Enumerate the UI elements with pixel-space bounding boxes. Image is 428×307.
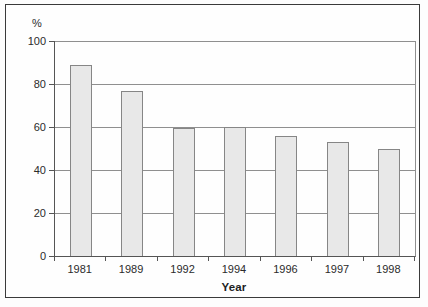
x-tick-label-1996: 1996 bbox=[259, 263, 311, 275]
y-tick-mark-100 bbox=[49, 41, 54, 42]
x-tick-label-1992: 1992 bbox=[157, 263, 209, 275]
y-tick-label-0: 0 bbox=[16, 251, 46, 262]
bar-1989 bbox=[121, 91, 143, 257]
figure-frame: % 020406080100 1981198919921994199619971… bbox=[5, 4, 420, 298]
x-tick-mark-6 bbox=[363, 257, 364, 261]
plot-area bbox=[54, 41, 416, 257]
y-tick-mark-40 bbox=[49, 170, 54, 171]
bar-1992 bbox=[173, 128, 195, 256]
x-tick-label-1998: 1998 bbox=[362, 263, 414, 275]
bar-1998 bbox=[378, 149, 400, 257]
x-axis-title: Year bbox=[54, 281, 414, 293]
x-tick-label-1997: 1997 bbox=[311, 263, 363, 275]
y-axis-unit-label: % bbox=[26, 17, 48, 29]
x-tick-label-1994: 1994 bbox=[208, 263, 260, 275]
y-tick-mark-20 bbox=[49, 213, 54, 214]
x-tick-mark-2 bbox=[157, 257, 158, 261]
x-tick-label-1989: 1989 bbox=[105, 263, 157, 275]
y-tick-label-80: 80 bbox=[16, 79, 46, 90]
x-tick-mark-4 bbox=[260, 257, 261, 261]
x-tick-mark-3 bbox=[208, 257, 209, 261]
bar-1997 bbox=[327, 142, 349, 256]
bar-1996 bbox=[275, 136, 297, 256]
chart-figure: % 020406080100 1981198919921994199619971… bbox=[0, 0, 428, 307]
y-tick-mark-80 bbox=[49, 84, 54, 85]
gridline-80 bbox=[55, 84, 415, 85]
y-tick-label-60: 60 bbox=[16, 122, 46, 133]
y-tick-mark-60 bbox=[49, 127, 54, 128]
x-tick-label-1981: 1981 bbox=[54, 263, 106, 275]
x-tick-mark-7 bbox=[414, 257, 415, 261]
y-tick-label-40: 40 bbox=[16, 165, 46, 176]
x-tick-mark-1 bbox=[105, 257, 106, 261]
bar-1981 bbox=[70, 65, 92, 256]
bar-1994 bbox=[224, 127, 246, 256]
gridline-100 bbox=[55, 41, 415, 42]
x-tick-mark-0 bbox=[54, 257, 55, 261]
y-tick-label-20: 20 bbox=[16, 208, 46, 219]
x-tick-mark-5 bbox=[311, 257, 312, 261]
y-tick-label-100: 100 bbox=[16, 36, 46, 47]
